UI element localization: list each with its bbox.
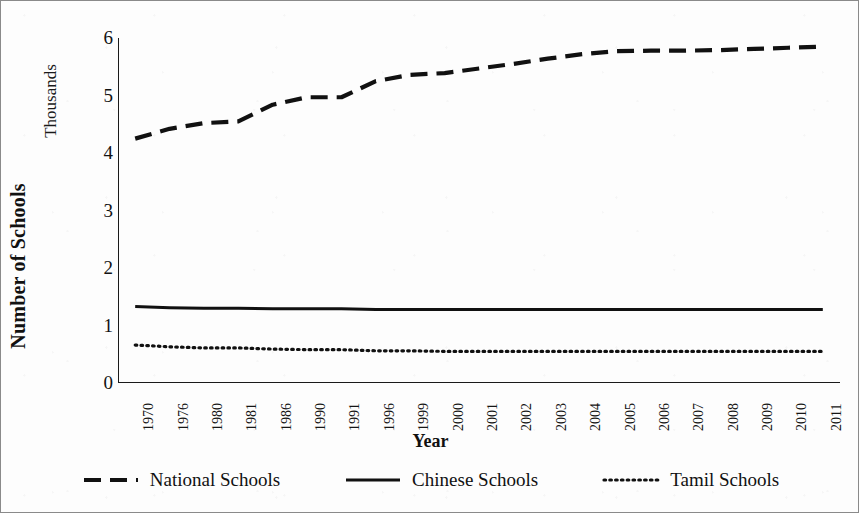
plot-area	[118, 38, 840, 383]
x-tick-label: 2007	[691, 381, 707, 431]
legend-marker-solid-icon	[344, 474, 402, 486]
x-tick-label: 2009	[760, 381, 776, 431]
plot-svg	[118, 38, 840, 383]
legend-label: Tamil Schools	[670, 469, 779, 491]
legend-marker-dotted-icon	[602, 474, 660, 486]
series-line-1	[135, 307, 823, 310]
x-tick-label: 2005	[623, 381, 639, 431]
x-tick-label: 2001	[485, 381, 501, 431]
x-tick-label: 2011	[829, 381, 845, 431]
x-tick-label: 1991	[347, 381, 363, 431]
x-tick-label: 1999	[416, 381, 432, 431]
x-tick-label: 2004	[588, 381, 604, 431]
x-tick-label: 1980	[210, 381, 226, 431]
y-tick-label: 5	[87, 86, 113, 105]
x-tick-label: 1976	[176, 381, 192, 431]
y-axis-title: Number of Schools	[7, 151, 30, 381]
y-tick-label: 2	[87, 258, 113, 277]
y-tick-label: 6	[87, 28, 113, 47]
chart-legend: National SchoolsChinese SchoolsTamil Sch…	[1, 469, 859, 491]
x-tick-label: 2003	[554, 381, 570, 431]
legend-item[interactable]: National Schools	[82, 469, 280, 491]
axis-lines	[118, 38, 840, 383]
legend-item[interactable]: Chinese Schools	[344, 469, 538, 491]
x-tick-label: 2010	[794, 381, 810, 431]
x-axis-title: Year	[1, 431, 859, 452]
x-tick-label: 1970	[141, 381, 157, 431]
legend-marker-dashed-icon	[82, 474, 140, 486]
y-axis-units-label: Thousands	[41, 41, 61, 161]
x-tick-label: 2000	[451, 381, 467, 431]
x-axis-tick-labels: 1970197619801981198619901991199619992000…	[118, 387, 840, 433]
legend-item[interactable]: Tamil Schools	[602, 469, 779, 491]
x-tick-label: 2008	[726, 381, 742, 431]
y-axis-tick-labels: 0123456	[83, 1, 113, 421]
legend-label: National Schools	[150, 469, 280, 491]
legend-label: Chinese Schools	[412, 469, 538, 491]
x-tick-label: 2006	[657, 381, 673, 431]
y-tick-label: 1	[87, 316, 113, 335]
y-tick-label: 0	[87, 373, 113, 392]
series-line-2	[135, 345, 823, 351]
series-line-0	[135, 47, 823, 139]
x-tick-label: 1996	[382, 381, 398, 431]
x-tick-label: 2002	[519, 381, 535, 431]
x-tick-label: 1981	[244, 381, 260, 431]
x-tick-label: 1986	[279, 381, 295, 431]
x-tick-label: 1990	[313, 381, 329, 431]
y-tick-label: 3	[87, 201, 113, 220]
y-tick-label: 4	[87, 143, 113, 162]
chart-figure: Number of Schools Thousands 0123456 1970…	[0, 0, 859, 513]
